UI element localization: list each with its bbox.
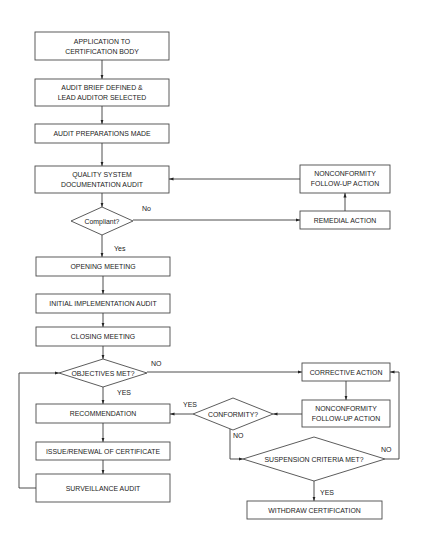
node-label: FOLLOW-UP ACTION xyxy=(312,415,380,422)
node-initial-implementation-audit: INITIAL IMPLEMENTATION AUDIT xyxy=(36,294,170,313)
node-nc-followup-2: NONCONFORMITY FOLLOW-UP ACTION xyxy=(302,400,390,427)
node-label: REMEDIAL ACTION xyxy=(314,217,377,224)
node-label: CORRECTIVE ACTION xyxy=(310,369,383,376)
node-qs-documentation-audit: QUALITY SYSTEM DOCUMENTATION AUDIT xyxy=(35,166,169,193)
certification-flowchart: APPLICATION TO CERTIFICATION BODY AUDIT … xyxy=(0,0,421,544)
decision-conformity: CONFORMITY? xyxy=(193,398,273,430)
node-issue-renewal: ISSUE/RENEWAL OF CERTIFICATE xyxy=(36,442,170,460)
node-label: OPENING MEETING xyxy=(70,263,135,270)
node-label: NONCONFORMITY xyxy=(315,405,377,412)
edge-label-conformity-no: NO xyxy=(233,432,244,439)
edge-label-objectives-yes: YES xyxy=(117,389,131,396)
node-label: RECOMMENDATION xyxy=(70,410,137,417)
node-label: QUALITY SYSTEM xyxy=(72,171,132,179)
edge-label-compliant-no: No xyxy=(142,205,151,212)
node-label: AUDIT PREPARATIONS MADE xyxy=(53,130,151,137)
node-surveillance-audit: SURVEILLANCE AUDIT xyxy=(36,474,170,502)
edge-label-conformity-yes: YES xyxy=(183,401,197,408)
node-label: APPLICATION TO xyxy=(74,38,131,45)
edge-label-objectives-no: NO xyxy=(151,360,162,367)
decision-objectives-met: OBJECTIVES MET? xyxy=(59,359,147,387)
edge-label-compliant-yes: Yes xyxy=(114,245,126,252)
node-opening-meeting: OPENING MEETING xyxy=(36,257,170,276)
node-corrective-action: CORRECTIVE ACTION xyxy=(302,363,390,381)
arrow-surveillance-loop xyxy=(19,373,59,488)
node-withdraw-certification: WITHDRAW CERTIFICATION xyxy=(247,501,382,519)
node-nc-followup-1: NONCONFORMITY FOLLOW-UP ACTION xyxy=(300,165,390,193)
edge-label-suspension-no: NO xyxy=(381,446,392,453)
node-label: DOCUMENTATION AUDIT xyxy=(61,181,144,188)
node-audit-brief: AUDIT BRIEF DEFINED & LEAD AUDITOR SELEC… xyxy=(35,79,169,106)
edge-label-suspension-yes: YES xyxy=(320,489,334,496)
node-label: LEAD AUDITOR SELECTED xyxy=(58,94,147,101)
decision-compliant: Compliant? xyxy=(71,207,133,235)
decision-label: CONFORMITY? xyxy=(208,411,258,418)
node-label: ISSUE/RENEWAL OF CERTIFICATE xyxy=(46,448,160,455)
node-application: APPLICATION TO CERTIFICATION BODY xyxy=(35,32,169,60)
node-label: CLOSING MEETING xyxy=(71,333,135,340)
node-label: SURVEILLANCE AUDIT xyxy=(66,485,141,492)
decision-label: SUSPENSION CRITERIA MET? xyxy=(264,456,363,463)
decision-label: OBJECTIVES MET? xyxy=(71,370,134,377)
decision-suspension-criteria: SUSPENSION CRITERIA MET? xyxy=(243,437,385,481)
node-audit-preparations: AUDIT PREPARATIONS MADE xyxy=(35,124,169,143)
node-label: NONCONFORMITY xyxy=(314,170,376,177)
node-label: FOLLOW-UP ACTION xyxy=(311,180,379,187)
node-closing-meeting: CLOSING MEETING xyxy=(36,327,170,346)
node-label: CERTIFICATION BODY xyxy=(65,48,139,55)
node-label: INITIAL IMPLEMENTATION AUDIT xyxy=(49,300,157,307)
node-remedial-action: REMEDIAL ACTION xyxy=(300,211,390,229)
node-label: WITHDRAW CERTIFICATION xyxy=(268,507,361,514)
decision-label: Compliant? xyxy=(85,218,120,226)
node-label: AUDIT BRIEF DEFINED & xyxy=(61,84,143,91)
node-recommendation: RECOMMENDATION xyxy=(36,404,170,423)
